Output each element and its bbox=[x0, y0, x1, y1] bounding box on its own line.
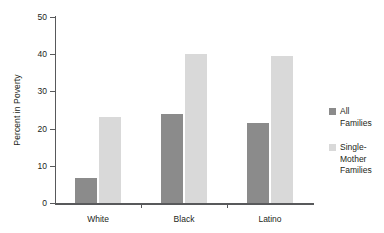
x-axis-separator-tick bbox=[141, 203, 142, 208]
bar bbox=[99, 117, 121, 203]
x-axis-tick-label: Black bbox=[141, 212, 227, 226]
x-axis-tick-label: White bbox=[55, 212, 141, 226]
y-axis-tick: 40 bbox=[50, 54, 55, 55]
y-axis-tick: 0 bbox=[50, 203, 55, 204]
bar bbox=[271, 56, 293, 203]
bar-chart: Percent in Poverty 01020304050 WhiteBlac… bbox=[0, 0, 384, 233]
legend-swatch-icon bbox=[329, 144, 336, 151]
x-axis-separator-tick bbox=[227, 203, 228, 208]
bar bbox=[185, 54, 207, 203]
y-axis-tick-label: 0 bbox=[42, 196, 47, 210]
legend-item-label: Single- Mother Families bbox=[340, 142, 372, 177]
x-axis-tick-label: Latino bbox=[227, 212, 313, 226]
y-axis-tick-label: 30 bbox=[38, 84, 47, 98]
y-axis-tick-label: 40 bbox=[38, 47, 47, 61]
y-axis-tick: 20 bbox=[50, 129, 55, 130]
plot-area: 01020304050 WhiteBlackLatino bbox=[55, 17, 313, 203]
bar bbox=[161, 114, 183, 203]
y-axis-tick: 30 bbox=[50, 91, 55, 92]
legend-item-label: All Families bbox=[340, 106, 372, 129]
y-axis-tick-label: 10 bbox=[38, 159, 47, 173]
x-axis-line bbox=[55, 203, 314, 205]
y-axis-title: Percent in Poverty bbox=[10, 17, 24, 203]
y-axis-line bbox=[55, 16, 56, 204]
y-axis-tick: 10 bbox=[50, 166, 55, 167]
y-axis-tick-label: 50 bbox=[38, 10, 47, 24]
bar bbox=[75, 178, 97, 203]
legend-swatch-icon bbox=[329, 108, 336, 115]
legend-item[interactable]: Single- Mother Families bbox=[329, 142, 384, 177]
bar bbox=[247, 123, 269, 203]
legend: All Families Single- Mother Families bbox=[329, 106, 384, 190]
y-axis-tick: 50 bbox=[50, 17, 55, 18]
legend-item[interactable]: All Families bbox=[329, 106, 384, 129]
y-axis-tick-label: 20 bbox=[38, 122, 47, 136]
